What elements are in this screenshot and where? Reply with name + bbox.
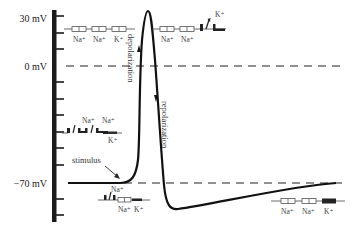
axis-label-minus70mv: −70 mV bbox=[14, 178, 48, 189]
svg-text:Na⁺: Na⁺ bbox=[181, 35, 194, 44]
action-potential-curve bbox=[68, 11, 336, 209]
svg-text:Na⁺: Na⁺ bbox=[82, 116, 95, 125]
na-channel-closed-icon bbox=[118, 198, 131, 203]
repolarization-label: repolarization bbox=[160, 101, 170, 149]
na-channel-open-icon bbox=[67, 125, 88, 133]
svg-text:K⁺: K⁺ bbox=[215, 10, 224, 19]
k-channel-closed-icon bbox=[112, 27, 126, 32]
svg-text:Na⁺: Na⁺ bbox=[161, 35, 174, 44]
depolarization-label: depolarization bbox=[126, 34, 136, 83]
na-channel-inactivated-icon bbox=[160, 27, 174, 32]
peak-channels: Na⁺ Na⁺ K⁺ bbox=[152, 10, 226, 44]
recovery-channels: Na⁺ Na⁺ K⁺ bbox=[271, 199, 345, 217]
svg-text:K⁺: K⁺ bbox=[134, 205, 143, 214]
na-channel-inactivated-icon bbox=[180, 27, 194, 32]
stimulus-label: stimulus bbox=[72, 155, 101, 165]
svg-text:Na⁺: Na⁺ bbox=[302, 207, 315, 216]
axis-ticks bbox=[56, 16, 64, 215]
svg-text:K⁺: K⁺ bbox=[108, 136, 117, 145]
svg-text:K⁺: K⁺ bbox=[114, 35, 123, 44]
na-channel-closed-icon bbox=[72, 27, 86, 32]
svg-text:Na⁺: Na⁺ bbox=[281, 207, 294, 216]
svg-text:Na⁺: Na⁺ bbox=[102, 116, 115, 125]
na-channel-closed-icon bbox=[92, 27, 106, 32]
axis-label-30mv: 30 mV bbox=[20, 13, 48, 24]
na-channel-closed-icon bbox=[302, 199, 316, 204]
depolarization-channels: Na⁺ Na⁺ K⁺ bbox=[62, 116, 122, 145]
svg-text:Na⁺: Na⁺ bbox=[111, 185, 124, 194]
threshold-channels: Na⁺ Na⁺ K⁺ bbox=[98, 185, 150, 214]
na-channel-closed-icon bbox=[281, 199, 295, 204]
svg-text:Na⁺: Na⁺ bbox=[93, 35, 106, 44]
k-channel-closing-icon bbox=[322, 199, 336, 204]
svg-text:Na⁺: Na⁺ bbox=[118, 205, 131, 214]
svg-text:K⁺: K⁺ bbox=[324, 207, 333, 216]
k-channel-closed-icon bbox=[132, 199, 142, 202]
k-channel-closed-icon bbox=[103, 132, 122, 135]
action-potential-diagram: 30 mV 0 mV −70 mV depolarization repolar… bbox=[0, 0, 354, 231]
axis-label-0mv: 0 mV bbox=[25, 61, 48, 72]
resting-channels-top: Na⁺ Na⁺ K⁺ bbox=[64, 27, 135, 45]
svg-text:Na⁺: Na⁺ bbox=[73, 35, 86, 44]
voltage-axis bbox=[52, 10, 57, 222]
